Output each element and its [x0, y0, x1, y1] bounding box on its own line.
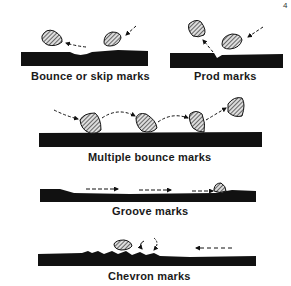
sediment-bed — [38, 251, 256, 266]
clast — [136, 114, 157, 133]
clast — [222, 34, 242, 49]
travel-arrow — [206, 108, 226, 120]
sediment-bed — [21, 50, 148, 66]
rotation-arrow — [154, 238, 157, 250]
page-mark: 4 — [283, 1, 287, 10]
label-chevron: Chevron marks — [108, 270, 191, 282]
label-multiple-bounce: Multiple bounce marks — [88, 151, 211, 163]
clast — [189, 20, 206, 36]
clast — [104, 32, 121, 46]
panel-prod — [170, 20, 283, 68]
clast — [214, 183, 226, 193]
travel-arrow — [54, 110, 78, 119]
clast — [42, 30, 62, 45]
travel-arrow — [158, 116, 188, 122]
travel-arrow — [248, 27, 263, 37]
panel-chevron — [38, 238, 256, 266]
sediment-bed — [170, 53, 283, 68]
label-groove: Groove marks — [112, 205, 188, 217]
travel-arrow — [102, 112, 135, 118]
sedimentary-tool-marks-diagram — [0, 0, 291, 286]
travel-arrow — [126, 26, 136, 35]
clast — [114, 240, 132, 250]
clast — [189, 112, 204, 133]
rotation-arrow — [140, 241, 144, 249]
panel-groove — [40, 183, 256, 202]
clast — [228, 98, 244, 117]
label-prod: Prod marks — [194, 70, 257, 82]
panel-multiple-bounce — [39, 98, 262, 147]
travel-arrow — [203, 40, 213, 52]
clast — [80, 113, 101, 133]
travel-arrow — [66, 43, 86, 47]
sediment-bed — [39, 132, 262, 147]
panel-bounce-skip — [21, 26, 148, 66]
label-bounce-skip: Bounce or skip marks — [31, 70, 150, 82]
